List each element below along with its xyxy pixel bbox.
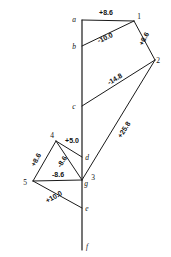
force-5-e: +10.0	[44, 189, 63, 204]
member-a-1	[82, 20, 134, 21]
member-5-g	[33, 180, 82, 181]
node-label-b: b	[72, 42, 76, 51]
force-b-1: -10.0	[96, 31, 114, 44]
node-label-f: f	[86, 242, 89, 251]
force-c-2: -14.8	[106, 72, 123, 86]
member-c-2	[82, 60, 155, 106]
force-5-g: -8.6	[52, 171, 64, 178]
node-label-3: 3	[91, 173, 95, 182]
force-4-5: +8.6	[29, 152, 42, 168]
node-label-2: 2	[156, 56, 160, 65]
node-label-e: e	[85, 204, 89, 213]
force-diagram: +8.6+8.6-10.0-14.8+25.8+5.0+8.6-8.6-8.6+…	[0, 0, 171, 257]
node-label-4: 4	[50, 131, 54, 140]
force-4-d: +5.0	[65, 137, 79, 144]
node-label-g: g	[84, 179, 88, 188]
force-a-1: +8.6	[99, 9, 113, 16]
force-1-2: +8.6	[137, 31, 150, 47]
force-labels-group: +8.6+8.6-10.0-14.8+25.8+5.0+8.6-8.6-8.6+…	[29, 9, 150, 204]
node-label-1: 1	[137, 12, 141, 21]
node-labels-group: abcdgef12345	[23, 12, 160, 251]
node-label-d: d	[85, 153, 89, 162]
node-label-c: c	[72, 102, 76, 111]
node-label-5: 5	[23, 178, 27, 187]
diagram-canvas: +8.6+8.6-10.0-14.8+25.8+5.0+8.6-8.6-8.6+…	[0, 0, 171, 257]
node-label-a: a	[72, 15, 76, 24]
force-2-g: +25.8	[116, 120, 131, 139]
